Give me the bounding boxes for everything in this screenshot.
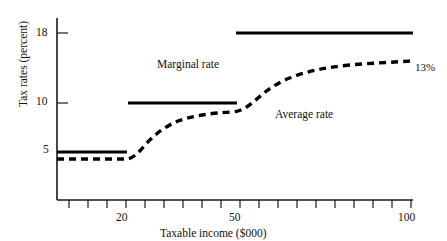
tax-rate-chart: Tax rates (percent) Taxable income ($000…	[0, 0, 447, 241]
marginal-rate-series	[57, 33, 413, 152]
y-axis-ticks	[57, 33, 68, 152]
y-tick-label-5: 5	[43, 144, 49, 156]
chart-canvas	[0, 0, 447, 241]
x-axis-title: Taxable income ($000)	[160, 228, 267, 240]
y-axis-title: Tax rates (percent)	[17, 4, 29, 124]
x-tick-label-50: 50	[229, 212, 241, 224]
x-tick-label-20: 20	[116, 212, 128, 224]
y-tick-label-18: 18	[36, 27, 48, 39]
average-rate-label: Average rate	[275, 109, 333, 121]
y-tick-label-10: 10	[36, 96, 48, 108]
average-rate-curve	[57, 61, 412, 159]
x-axis-ticks	[69, 200, 411, 208]
end-rate-label: 13%	[415, 62, 435, 73]
x-tick-label-100: 100	[398, 212, 415, 224]
marginal-rate-label: Marginal rate	[157, 59, 219, 71]
